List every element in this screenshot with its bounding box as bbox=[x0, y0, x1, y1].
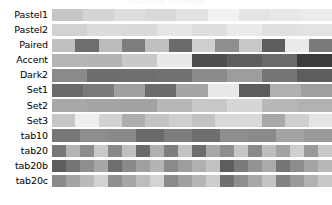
colormap-swatch bbox=[114, 84, 145, 97]
colormap-name-label: Pastel1 bbox=[0, 10, 52, 20]
colormap-swatch bbox=[239, 9, 270, 22]
colormap-swatch bbox=[262, 175, 276, 188]
colormap-swatch bbox=[304, 129, 332, 142]
colormap-swatch bbox=[248, 129, 276, 142]
colormap-reference-figure: Qualitative colormaps Pastel1Pastel2Pair… bbox=[0, 0, 332, 205]
colormap-swatch bbox=[99, 39, 122, 52]
colormap-swatch bbox=[239, 114, 262, 127]
colormap-swatch bbox=[262, 160, 276, 173]
colormap-swatch bbox=[80, 145, 94, 158]
colormap-swatch bbox=[87, 54, 122, 67]
colormap-strip bbox=[52, 175, 332, 188]
colormap-swatch bbox=[52, 175, 66, 188]
colormap-swatch bbox=[248, 145, 262, 158]
colormap-swatch bbox=[52, 84, 83, 97]
colormap-swatch bbox=[297, 54, 332, 67]
colormap-swatch bbox=[122, 114, 145, 127]
colormap-swatch bbox=[304, 145, 318, 158]
colormap-swatch bbox=[52, 9, 83, 22]
colormap-swatch bbox=[136, 175, 150, 188]
colormap-swatch bbox=[145, 84, 176, 97]
colormap-swatch bbox=[270, 84, 301, 97]
colormap-swatch bbox=[80, 160, 94, 173]
colormap-row-list: Pastel1Pastel2PairedAccentDark2Set1Set2S… bbox=[0, 8, 332, 189]
figure-title: Qualitative colormaps bbox=[0, 0, 332, 6]
colormap-name-label: tab20c bbox=[0, 176, 52, 186]
colormap-swatch bbox=[169, 39, 192, 52]
colormap-swatch bbox=[52, 160, 66, 173]
colormap-swatch bbox=[66, 175, 80, 188]
colormap-swatch bbox=[150, 175, 164, 188]
colormap-swatch bbox=[301, 84, 332, 97]
colormap-swatch bbox=[290, 145, 304, 158]
colormap-swatch bbox=[122, 39, 145, 52]
colormap-name-label: tab20b bbox=[0, 161, 52, 171]
colormap-swatch bbox=[122, 175, 136, 188]
colormap-swatch bbox=[297, 99, 332, 112]
colormap-swatch bbox=[192, 145, 206, 158]
colormap-swatch bbox=[52, 69, 87, 82]
colormap-swatch bbox=[87, 24, 122, 37]
colormap-swatch bbox=[318, 160, 332, 173]
colormap-swatch bbox=[52, 129, 80, 142]
colormap-swatch bbox=[52, 145, 66, 158]
colormap-swatch bbox=[206, 160, 220, 173]
colormap-swatch bbox=[318, 175, 332, 188]
colormap-swatch bbox=[145, 9, 176, 22]
colormap-strip bbox=[52, 9, 332, 22]
colormap-swatch bbox=[262, 54, 297, 67]
colormap-swatch bbox=[309, 39, 332, 52]
colormap-swatch bbox=[227, 69, 262, 82]
colormap-name-label: Set3 bbox=[0, 116, 52, 126]
colormap-swatch bbox=[66, 145, 80, 158]
colormap-swatch bbox=[262, 99, 297, 112]
colormap-name-label: tab10 bbox=[0, 131, 52, 141]
colormap-swatch bbox=[290, 175, 304, 188]
colormap-name-label: Accent bbox=[0, 55, 52, 65]
colormap-swatch bbox=[304, 175, 318, 188]
colormap-swatch bbox=[114, 9, 145, 22]
colormap-swatch bbox=[178, 160, 192, 173]
colormap-name-label: Set1 bbox=[0, 85, 52, 95]
colormap-row: tab20c bbox=[0, 174, 332, 188]
colormap-swatch bbox=[215, 114, 238, 127]
colormap-row: Set1 bbox=[0, 83, 332, 97]
colormap-swatch bbox=[276, 160, 290, 173]
colormap-swatch bbox=[108, 145, 122, 158]
colormap-swatch bbox=[136, 160, 150, 173]
colormap-swatch bbox=[52, 99, 87, 112]
colormap-swatch bbox=[178, 145, 192, 158]
colormap-name-label: tab20 bbox=[0, 146, 52, 156]
colormap-swatch bbox=[75, 39, 98, 52]
colormap-swatch bbox=[276, 175, 290, 188]
colormap-swatch bbox=[157, 69, 192, 82]
colormap-swatch bbox=[164, 129, 192, 142]
colormap-swatch bbox=[164, 175, 178, 188]
colormap-swatch bbox=[309, 114, 332, 127]
colormap-swatch bbox=[276, 129, 304, 142]
colormap-strip bbox=[52, 114, 332, 127]
colormap-swatch bbox=[150, 160, 164, 173]
colormap-swatch bbox=[220, 175, 234, 188]
colormap-swatch bbox=[285, 39, 308, 52]
colormap-swatch bbox=[178, 175, 192, 188]
colormap-strip bbox=[52, 54, 332, 67]
colormap-swatch bbox=[52, 24, 87, 37]
colormap-swatch bbox=[227, 99, 262, 112]
colormap-swatch bbox=[66, 160, 80, 173]
colormap-swatch bbox=[262, 69, 297, 82]
colormap-swatch bbox=[108, 160, 122, 173]
colormap-row: Pastel1 bbox=[0, 8, 332, 22]
colormap-swatch bbox=[220, 129, 248, 142]
colormap-swatch bbox=[83, 9, 114, 22]
colormap-swatch bbox=[122, 99, 157, 112]
colormap-swatch bbox=[87, 69, 122, 82]
colormap-swatch bbox=[80, 129, 108, 142]
colormap-swatch bbox=[192, 69, 227, 82]
colormap-strip bbox=[52, 69, 332, 82]
colormap-swatch bbox=[176, 9, 207, 22]
colormap-swatch bbox=[108, 129, 136, 142]
colormap-swatch bbox=[108, 175, 122, 188]
colormap-swatch bbox=[122, 69, 157, 82]
colormap-swatch bbox=[157, 99, 192, 112]
